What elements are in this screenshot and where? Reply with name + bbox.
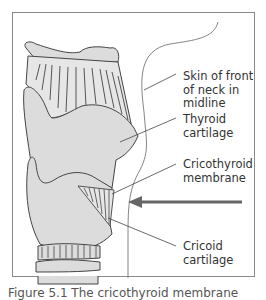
- figure-caption: Figure 5.1 The cricothyroid membrane: [8, 286, 238, 300]
- arrow-icon: [128, 196, 242, 208]
- label-skin: Skin of front of neck in midline: [183, 70, 253, 111]
- label-cricoid-cartilage: Cricoid cartilage: [183, 240, 233, 267]
- label-thyroid-cartilage: Thyroid cartilage: [183, 113, 233, 140]
- label-cricothyroid-membrane: Cricothyroid membrane: [183, 158, 253, 185]
